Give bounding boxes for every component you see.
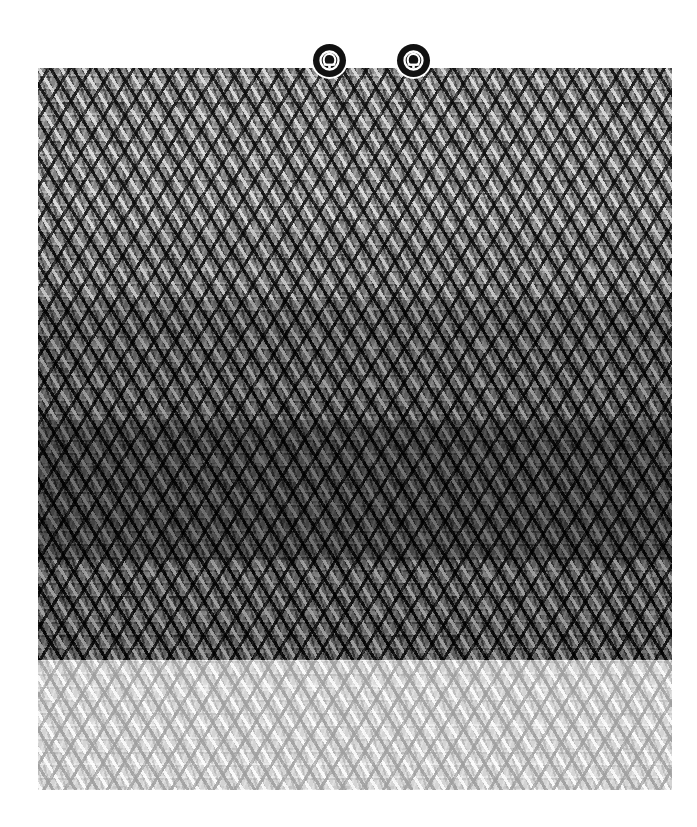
emblem-ring-arch-icon [317, 48, 342, 73]
weave-layer-fine-right [38, 68, 672, 790]
weave-layer-arch-motif [38, 68, 672, 790]
weave-layer-scanlines [38, 68, 672, 790]
right-edge-white-notch [672, 398, 683, 419]
page-canvas [0, 0, 697, 827]
weave-layer-diagonal-right [38, 68, 672, 790]
weave-layer-fine-left [38, 68, 672, 790]
tonal-band-overlay-light [38, 68, 672, 790]
emblem-badge-left[interactable] [313, 44, 346, 77]
emblem-badge-right[interactable] [397, 44, 430, 77]
emblem-ring-arch-icon [401, 48, 426, 73]
scanned-image-block [38, 68, 672, 790]
tonal-band-overlay-dark [38, 68, 672, 790]
weave-layer-diagonal-left [38, 68, 672, 790]
